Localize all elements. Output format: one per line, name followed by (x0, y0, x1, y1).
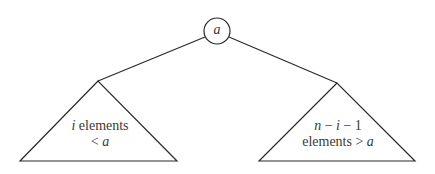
right-minus-1: − (321, 118, 336, 133)
left-elements-text: elements (75, 118, 128, 133)
left-subtree-line1: i elements (58, 118, 142, 134)
left-less-than: < (91, 134, 102, 149)
left-var-a: a (102, 134, 109, 149)
right-minus-one: − 1 (340, 118, 362, 133)
right-var-a: a (367, 134, 374, 149)
edge-root-right (229, 37, 337, 83)
right-subtree-line1: n − i − 1 (290, 118, 386, 134)
right-elements-text: elements > (302, 134, 367, 149)
left-subtree-line2: < a (58, 134, 142, 150)
root-node-label: a (210, 22, 224, 38)
right-subtree-line2: elements > a (290, 134, 386, 150)
edge-root-left (98, 37, 205, 81)
left-subtree-label: i elements < a (58, 118, 142, 150)
right-subtree-label: n − i − 1 elements > a (290, 118, 386, 150)
